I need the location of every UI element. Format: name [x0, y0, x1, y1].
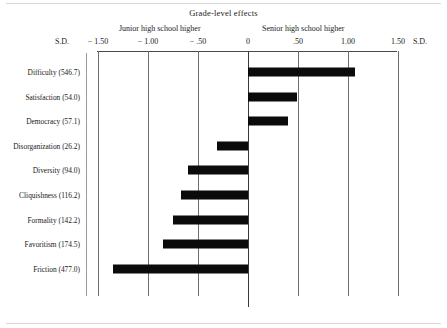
- bar: [217, 141, 248, 150]
- page-bottom-rule: [6, 323, 441, 324]
- caption-senior-high-higher: Senior high school higher: [262, 24, 344, 33]
- bar: [248, 92, 297, 101]
- category-label: Friction (477.0): [33, 264, 80, 273]
- bar: [173, 215, 248, 224]
- x-axis-tick-labels: − 1.50− 1.00− .500.501.001.50S.D.S.D.: [0, 37, 447, 49]
- axis-unit-label-left: S.D.: [55, 37, 69, 46]
- category-label: Disorganization (26.2): [13, 141, 80, 150]
- chart-title: Grade-level effects: [0, 8, 447, 18]
- category-label: Formality (142.2): [27, 215, 80, 224]
- gridline: [398, 51, 399, 296]
- category-label: Difficulty (546.7): [28, 68, 80, 77]
- axis-unit-label-right: S.D.: [413, 37, 427, 46]
- category-label: Diversity (94.0): [33, 166, 80, 175]
- bar: [163, 240, 248, 249]
- category-label: Democracy (57.1): [26, 117, 80, 126]
- x-axis-tick-label: − 1.50: [88, 37, 109, 46]
- category-label: Satisfaction (54.0): [25, 92, 80, 101]
- bar-series: [97, 51, 397, 307]
- x-axis-tick-label: 0: [246, 37, 250, 46]
- x-axis-tick-label: 1.00: [341, 37, 355, 46]
- caption-junior-high-higher: Junior high school higher: [119, 24, 201, 33]
- category-label: Favoritism (174.5): [25, 240, 80, 249]
- bar: [113, 264, 248, 273]
- figure-container: Grade-level effects Junior high school h…: [0, 0, 447, 328]
- bar: [248, 68, 355, 77]
- page-top-rule: [6, 3, 441, 4]
- x-axis-tick-label: 1.50: [391, 37, 405, 46]
- category-column-divider: [86, 53, 87, 296]
- bar: [188, 166, 248, 175]
- x-axis-tick-label: − 1.00: [138, 37, 159, 46]
- bar: [248, 117, 288, 126]
- x-axis-tick-label: .50: [293, 37, 303, 46]
- bar: [181, 191, 248, 200]
- x-axis-tick-label: − .50: [190, 37, 207, 46]
- category-label: Cliquishness (116.2): [19, 191, 80, 200]
- category-axis: Difficulty (546.7)Satisfaction (54.0)Dem…: [0, 51, 86, 307]
